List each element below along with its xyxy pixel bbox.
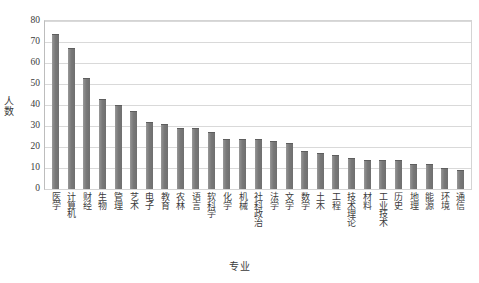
bar — [426, 164, 433, 189]
bar-slot — [437, 21, 453, 189]
bar-slot — [375, 21, 391, 189]
bar — [161, 124, 168, 189]
bar-slot — [204, 21, 220, 189]
bar — [177, 128, 184, 189]
x-label-slot: 软科学 — [204, 192, 220, 254]
bar — [255, 139, 262, 189]
bar-slot — [281, 21, 297, 189]
x-label-slot: 材料 — [359, 192, 375, 254]
y-axis-tick-label: 10 — [31, 163, 41, 173]
y-axis-tick-label: 40 — [31, 100, 41, 110]
x-label-slot: 通信 — [453, 192, 469, 254]
x-label-slot: 艺术 — [126, 192, 142, 254]
bar — [286, 143, 293, 189]
x-axis-tick-label: 数学 — [300, 192, 309, 209]
x-label-slot: 计算机 — [64, 192, 80, 254]
x-axis-tick-label: 能源 — [425, 192, 434, 209]
bar-slot — [173, 21, 189, 189]
bar — [395, 160, 402, 189]
x-axis-tick-label: 农林 — [176, 192, 185, 209]
y-axis-tick-label: 20 — [31, 142, 41, 152]
bar-slot — [48, 21, 64, 189]
bar-slot — [110, 21, 126, 189]
bar-slot — [219, 21, 235, 189]
y-axis-tick-label: 0 — [35, 184, 40, 194]
bar — [332, 155, 339, 189]
bar-slot — [126, 21, 142, 189]
x-label-slot: 财经 — [79, 192, 95, 254]
bar — [239, 139, 246, 189]
bar-slot — [250, 21, 266, 189]
y-axis-tick-label: 30 — [31, 121, 41, 131]
bar — [192, 128, 199, 189]
bar — [223, 139, 230, 189]
x-label-slot: 医学 — [48, 192, 64, 254]
bar-slot — [297, 21, 313, 189]
bar-slot — [64, 21, 80, 189]
x-label-slot: 环境 — [437, 192, 453, 254]
x-label-slot: 数学 — [297, 192, 313, 254]
bar — [348, 158, 355, 190]
x-label-slot: 地理 — [406, 192, 422, 254]
bars-container — [45, 21, 471, 189]
x-axis-tick-label: 土木 — [316, 192, 325, 209]
x-axis-tick-label: 计算机 — [67, 192, 76, 218]
x-axis-tick-label: 教育 — [160, 192, 169, 209]
y-axis-tick-labels: 80706050403020100 — [0, 20, 40, 190]
bar-slot — [95, 21, 111, 189]
bar — [301, 151, 308, 189]
x-axis-tick-label: 环境 — [440, 192, 449, 209]
x-label-slot: 工业技术 — [375, 192, 391, 254]
x-axis-tick-label: 化学 — [222, 192, 231, 209]
bar-slot — [188, 21, 204, 189]
bar — [83, 78, 90, 189]
bar-slot — [422, 21, 438, 189]
x-axis-tick-label: 电子 — [145, 192, 154, 209]
x-axis-tick-label: 文学 — [285, 192, 294, 209]
x-axis-tick-label: 材料 — [363, 192, 372, 209]
bar-slot — [359, 21, 375, 189]
x-axis-tick-label: 艺术 — [129, 192, 138, 209]
bar — [270, 141, 277, 189]
x-axis-tick-label: 机械 — [238, 192, 247, 209]
bar — [379, 160, 386, 189]
x-axis-tick-label: 管理 — [114, 192, 123, 209]
x-axis-tick-label: 软科学 — [207, 192, 216, 218]
x-label-slot: 社科政治 — [250, 192, 266, 254]
bar-slot — [406, 21, 422, 189]
x-axis-title: 专业 — [0, 258, 479, 273]
x-axis-tick-label: 工程 — [331, 192, 340, 209]
x-label-slot: 工程 — [328, 192, 344, 254]
bar-chart: 人数 80706050403020100 医学计算机财经生物管理艺术电子教育农林… — [0, 0, 479, 283]
bar — [317, 153, 324, 189]
bar — [410, 164, 417, 189]
x-label-slot: 化学 — [219, 192, 235, 254]
x-label-slot: 农林 — [173, 192, 189, 254]
bar — [441, 168, 448, 189]
x-axis-tick-label: 技术理论 — [347, 192, 356, 226]
bar-slot — [313, 21, 329, 189]
x-axis-tick-label: 社科政治 — [254, 192, 263, 226]
x-axis-tick-label: 工业技术 — [378, 192, 387, 226]
x-axis-tick-label: 财经 — [82, 192, 91, 209]
x-label-slot: 语言 — [188, 192, 204, 254]
bar-slot — [328, 21, 344, 189]
bar-slot — [141, 21, 157, 189]
x-label-slot: 法学 — [266, 192, 282, 254]
bar — [99, 99, 106, 189]
bar-slot — [79, 21, 95, 189]
x-axis-tick-label: 历史 — [394, 192, 403, 209]
bar-slot — [235, 21, 251, 189]
x-label-slot: 生物 — [95, 192, 111, 254]
bar — [115, 105, 122, 189]
x-axis-tick-label: 通信 — [456, 192, 465, 209]
x-label-slot: 教育 — [157, 192, 173, 254]
y-axis-tick-label: 80 — [31, 16, 41, 26]
y-axis-tick-label: 70 — [31, 37, 41, 47]
x-label-slot: 能源 — [422, 192, 438, 254]
bar-slot — [390, 21, 406, 189]
x-axis-tick-label: 医学 — [51, 192, 60, 209]
x-axis-tick-label: 生物 — [98, 192, 107, 209]
bar-slot — [344, 21, 360, 189]
bar — [52, 34, 59, 189]
